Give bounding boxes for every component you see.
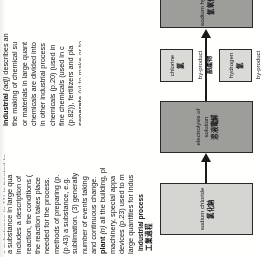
diagram-title-zh: 工業過程 <box>145 194 153 251</box>
entry-headword: industrial <box>1 93 10 126</box>
body-line: chemicals (p.20) (used in <box>48 6 57 126</box>
body-line: number of events taking <box>80 134 89 254</box>
diagram-node-sodium-chloride: sodium chloride 氯化鈉 <box>160 183 253 235</box>
body-line: methods of preparing (p. <box>52 134 61 254</box>
body-line: the making of chemical su <box>10 6 19 126</box>
body-line: devices (p.23) used to m <box>117 134 126 254</box>
entry-first-line: all the building, pl <box>98 168 107 224</box>
diagram-node-electrolysis: electrolysis of solution 溶液電解 <box>160 101 253 153</box>
diagram-title: industrial process 工業過程 <box>137 194 153 251</box>
arrow-salt-to-electrolysis-line <box>205 161 207 183</box>
scanned-page-rotator: a substance (p.11) is treated to change … <box>0 0 263 257</box>
node-label-en: sodium chloride <box>198 188 206 231</box>
arrow-electrolysis-to-naoh-line <box>205 37 207 101</box>
entry-headword: plant <box>98 237 107 254</box>
node-label-zh: 氯化鈉 <box>207 199 215 218</box>
entry-industrial: industrial (adj) describes an <box>1 6 10 126</box>
scanned-page: a substance (p.11) is treated to change … <box>0 0 263 257</box>
body-line: machinery, special appa <box>108 134 117 254</box>
text-column-right: industrial (adj) describes an the making… <box>1 6 81 126</box>
diagram-title-en: industrial process <box>137 194 145 251</box>
body-line: chemicals are divided into <box>29 6 38 126</box>
arrow-electrolysis-to-naoh-head-icon <box>201 29 211 38</box>
arrow-salt-to-electrolysis-head-icon <box>201 153 211 162</box>
byproduct-label-en: by-product <box>197 45 205 85</box>
diagram-node-sodium-hydroxide: sodium hydroxide 氫氧化鈉 <box>160 0 253 28</box>
byproduct-label-hydrogen: by-product 副產物 <box>255 45 263 85</box>
entry-first-line: to make or to <box>76 41 81 83</box>
part-of-speech: (n) <box>98 226 107 235</box>
body-line: the reaction takes place <box>33 134 42 254</box>
part-of-speech: (v) <box>76 86 81 94</box>
clipped-line-bottom: separate (v) to make or to <box>76 6 81 126</box>
entry-plant: plant (n) all the building, pl <box>98 134 107 254</box>
diagram-node-hydrogen: hydrogen 氫 <box>219 49 252 82</box>
body-line: (p.43) a substance, e.g. <box>61 134 70 254</box>
node-label-zh: 氫 <box>236 62 244 68</box>
body-line: (p.82)), fertilizers and pla <box>66 6 75 126</box>
text-column-left: a substance (p.11) is treated to change … <box>1 134 136 254</box>
industrial-process-diagram: industrial process 工業過程 sodium chloride … <box>131 0 263 257</box>
clipped-line-top: a substance (p.11) is treated to change … <box>1 134 5 254</box>
body-line: in other industrial process <box>38 6 47 126</box>
body-line: reaction, the conditions ( <box>24 134 33 254</box>
dictionary-text-area: a substance (p.11) is treated to change … <box>0 0 131 257</box>
body-line: includes a description of <box>14 134 23 254</box>
node-label-en: sodium hydroxide <box>198 0 206 26</box>
node-label-zh: 氫氧化鈉 <box>207 0 215 15</box>
part-of-speech: (adj) <box>1 77 10 92</box>
entry-headword: separate <box>76 96 81 126</box>
body-line: sublimation. (3) generally <box>70 134 79 254</box>
node-label-en: hydrogen <box>227 53 235 78</box>
diagram-node-chlorine: chlorine 氯 <box>160 49 193 82</box>
node-label-zh: 氯 <box>177 62 185 68</box>
node-label-en: electrolysis of solution <box>194 102 211 152</box>
body-line: needed for the process. <box>42 134 51 254</box>
body-line: fine chemicals (used in c <box>57 6 66 126</box>
node-label-zh: 溶液電解 <box>211 114 219 140</box>
body-line: and continuous change. <box>89 134 98 254</box>
entry-first-line: describes an <box>1 33 10 74</box>
body-line: or materials in large quant <box>20 6 29 126</box>
body-line: a substance in large qua <box>5 134 14 254</box>
node-label-en: chlorine <box>168 55 176 76</box>
byproduct-label-en: by-product <box>255 45 263 85</box>
